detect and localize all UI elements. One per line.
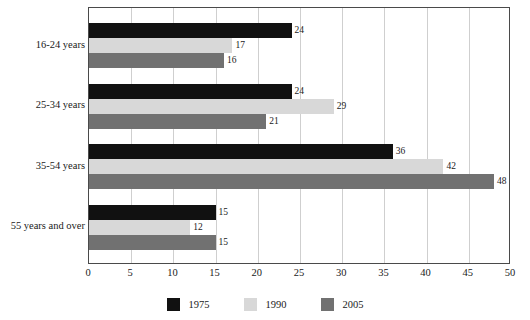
x-tick-label-35: 35 [378,266,389,280]
gridline-50 [511,8,512,263]
bar-1990-55-years-and-over [89,220,190,235]
legend-label: 2005 [343,298,364,311]
x-tick-label-50: 50 [505,266,516,280]
legend-label: 1990 [266,298,287,311]
bar-1990-35-54-years [89,159,443,174]
bar-2005-55-years-and-over [89,235,216,250]
category-label-16-24-years: 16-24 years [0,39,85,51]
x-tick-label-15: 15 [209,266,220,280]
bars-layer: 241716242921364248151215 [89,8,509,263]
bar-1990-25-34-years [89,99,334,114]
bar-1975-35-54-years [89,144,393,159]
x-tick-label-10: 10 [167,266,178,280]
bar-value-label: 36 [393,144,406,159]
bar-value-label: 29 [334,99,347,114]
bar-2005-35-54-years [89,174,494,189]
bar-1975-55-years-and-over [89,205,216,220]
x-tick-label-40: 40 [420,266,431,280]
bar-value-label: 12 [190,220,203,235]
category-label-25-34-years: 25-34 years [0,99,85,111]
plot-area: 241716242921364248151215 [88,7,510,264]
category-label-35-54-years: 35-54 years [0,160,85,172]
bar-1975-16-24-years [89,23,292,38]
bar-value-label: 17 [232,38,245,53]
bar-value-label: 24 [292,84,305,99]
x-axis-tick-labels: 05101520253035404550 [88,266,510,282]
chart-legend: 197519902005 [0,294,530,314]
bar-value-label: 15 [216,235,229,250]
legend-label: 1975 [189,298,210,311]
bar-1990-16-24-years [89,38,232,53]
legend-swatch-icon [321,298,334,311]
x-tick-label-5: 5 [128,266,133,280]
x-tick-label-45: 45 [463,266,474,280]
legend-swatch-icon [244,298,257,311]
bar-value-label: 48 [494,174,507,189]
x-tick-label-25: 25 [294,266,305,280]
x-tick-label-20: 20 [252,266,263,280]
bar-1975-25-34-years [89,84,292,99]
bar-value-label: 16 [224,53,237,68]
bar-value-label: 15 [216,205,229,220]
bar-value-label: 21 [266,114,279,129]
bar-2005-16-24-years [89,53,224,68]
legend-item-1990[interactable]: 1990 [244,298,287,311]
legend-item-1975[interactable]: 1975 [167,298,210,311]
category-label-55-years-and-over: 55 years and over [0,220,85,232]
bar-value-label: 42 [443,159,456,174]
x-tick-label-30: 30 [336,266,347,280]
x-tick-label-0: 0 [85,266,90,280]
bar-value-label: 24 [292,23,305,38]
bar-2005-25-34-years [89,114,266,129]
legend-item-2005[interactable]: 2005 [321,298,364,311]
legend-swatch-icon [167,298,180,311]
category-axis-labels: 16-24 years25-34 years35-54 years55 year… [0,7,85,264]
grouped-bar-chart: 16-24 years25-34 years35-54 years55 year… [0,0,530,320]
